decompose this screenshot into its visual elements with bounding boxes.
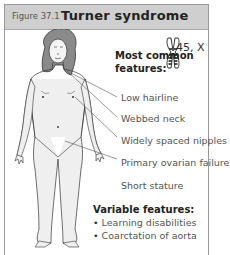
variable-features-heading: Variable features: — [93, 203, 194, 216]
variable-feature-item: •Learning disabilities — [93, 217, 196, 228]
heading-line-1: Most common — [115, 49, 194, 62]
feature-webbed-neck: Webbed neck — [121, 113, 185, 124]
variable-feature-label: Learning disabilities — [102, 217, 197, 228]
feature-low-hairline: Low hairline — [121, 92, 178, 103]
figure-panel: Figure 37.1 Turner syndrome — [4, 4, 209, 255]
common-features-heading: Most common features: — [115, 49, 194, 75]
feature-short-stature: Short stature — [121, 180, 183, 191]
feature-widely-spaced-nipples: Widely spaced nipples — [121, 135, 227, 146]
feature-primary-ovarian-failure: Primary ovarian failure — [121, 157, 229, 168]
variable-feature-label: Coarctation of aorta — [102, 230, 197, 241]
figure-header: Figure 37.1 Turner syndrome — [5, 5, 208, 30]
figure-title: Turner syndrome — [61, 8, 189, 23]
variable-feature-item: •Coarctation of aorta — [93, 230, 197, 241]
heading-line-2: features: — [115, 62, 194, 75]
figure-label: Figure 37.1 — [12, 11, 60, 21]
